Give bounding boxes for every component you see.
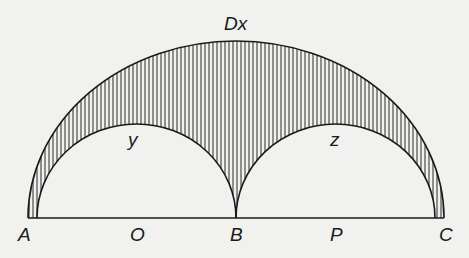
label-a: A [17, 224, 31, 245]
label-dx: Dx [224, 13, 249, 34]
label-o: O [130, 224, 145, 245]
label-c: C [439, 224, 453, 245]
label-y: y [126, 129, 139, 150]
label-b: B [230, 224, 243, 245]
label-z: z [329, 129, 340, 150]
label-p: P [330, 224, 343, 245]
shaded-region [28, 41, 444, 218]
semicircle-diagram: Dx y z A O B P C [0, 0, 469, 258]
